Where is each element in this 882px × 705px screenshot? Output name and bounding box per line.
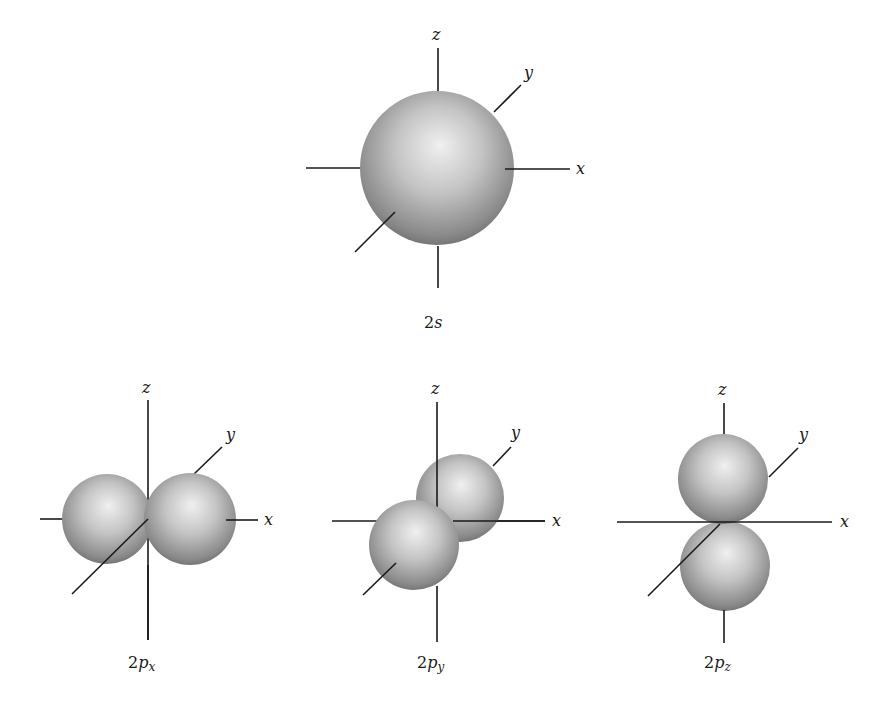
y-axis-back: [493, 447, 511, 466]
y-axis-label: y: [798, 425, 809, 444]
y-axis-back: [193, 447, 222, 475]
caption-2s: 2s: [424, 313, 442, 332]
orbital-2py: z y x 2py: [332, 379, 561, 674]
orbital-2pz: z y x 2pz: [617, 380, 849, 674]
x-axis-label: x: [552, 511, 561, 530]
lobe-positive-x: [144, 473, 236, 565]
y-axis-label: y: [225, 425, 236, 444]
orbital-2s: z y x 2s: [306, 25, 585, 332]
lobe-negative-x: [62, 474, 152, 564]
y-axis-label: y: [510, 423, 521, 442]
y-axis-back: [494, 85, 521, 112]
x-axis-label: x: [840, 512, 849, 531]
lobe-positive-z: [678, 434, 768, 524]
lobe-negative-z: [680, 521, 770, 611]
sphere-2s: [360, 91, 514, 245]
z-axis-label: z: [431, 25, 441, 44]
x-axis-label: x: [264, 510, 273, 529]
y-axis-front: [355, 212, 395, 252]
z-axis-label: z: [141, 378, 151, 397]
caption-2px: 2px: [128, 653, 155, 674]
caption-2py: 2py: [417, 653, 444, 674]
z-axis-label: z: [717, 380, 727, 399]
caption-2pz: 2pz: [704, 653, 731, 674]
orbital-diagram: z y x 2s z y x 2px z y x 2py: [0, 0, 882, 705]
y-axis-back: [769, 448, 798, 477]
y-axis-label: y: [523, 63, 534, 82]
x-axis-label: x: [576, 159, 585, 178]
z-axis-label: z: [430, 379, 440, 398]
orbital-2px: z y x 2px: [40, 378, 273, 674]
